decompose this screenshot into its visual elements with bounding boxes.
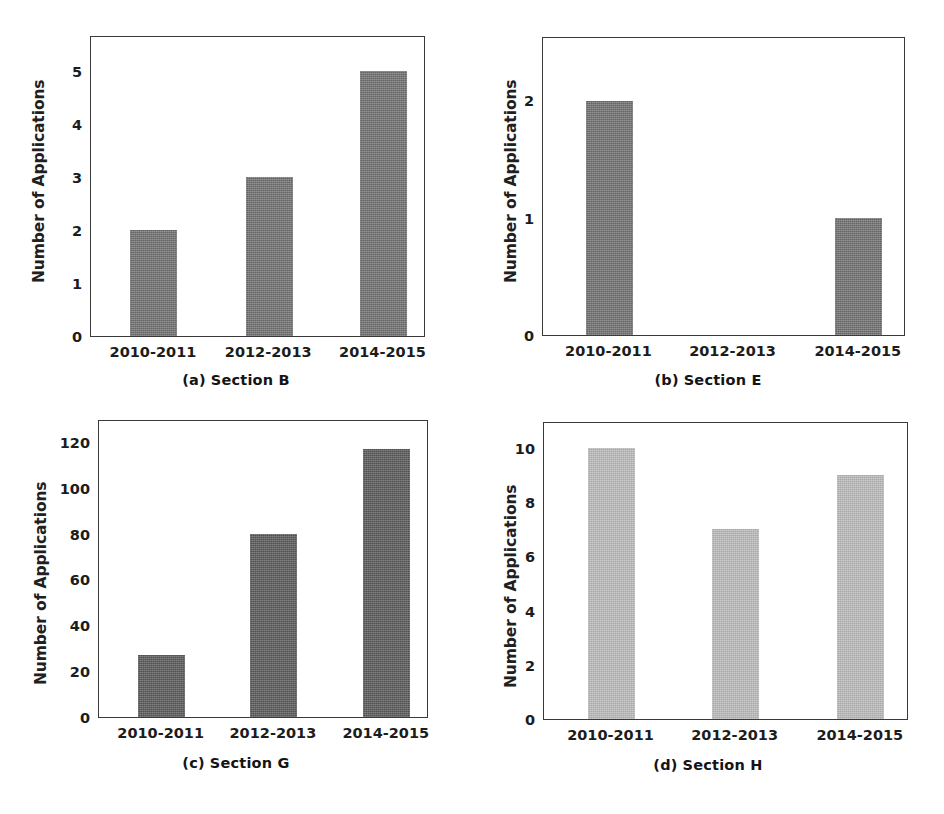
bar [586, 101, 633, 336]
bar [138, 655, 185, 717]
bar [360, 71, 407, 336]
x-tick-label: 2014-2015 [339, 344, 426, 360]
y-tick-label: 0 [472, 712, 535, 728]
y-tick-label: 2 [0, 223, 82, 239]
y-tick-label: 5 [0, 64, 82, 80]
panel-caption-id-a: (a) [182, 372, 206, 388]
figure-grid: Number of Applications 012345 2010-20112… [0, 0, 944, 814]
y-tick-label: 2 [472, 93, 534, 109]
y-tick-label: 3 [0, 170, 82, 186]
plot-area-d [543, 422, 908, 720]
bar-group-c [99, 421, 427, 717]
chart-panel-c: Number of Applications 020406080100120 2… [0, 407, 472, 814]
y-tick-label: 10 [472, 441, 535, 457]
y-tick-label: 120 [0, 435, 90, 451]
x-tick-label: 2012-2013 [230, 725, 317, 741]
bar [837, 475, 884, 719]
x-tick-label: 2012-2013 [689, 343, 776, 359]
bar [363, 449, 410, 717]
panel-caption-text-c: Section G [210, 755, 290, 771]
panel-caption-id-d: (d) [653, 757, 677, 773]
bar-group-d [544, 423, 907, 719]
chart-panel-d: Number of Applications 0246810 2010-2011… [472, 407, 944, 814]
y-tick-label: 0 [0, 329, 82, 345]
bar [250, 534, 297, 717]
chart-panel-b: Number of Applications 012 2010-20112012… [472, 0, 944, 407]
x-tick-label: 2010-2011 [567, 727, 654, 743]
y-axis-label-b: Number of Applications [502, 80, 520, 284]
x-tick-label: 2012-2013 [691, 727, 778, 743]
y-tick-label: 6 [472, 549, 535, 565]
y-tick-label: 40 [0, 618, 90, 634]
y-tick-label: 1 [472, 211, 534, 227]
y-tick-label: 20 [0, 664, 90, 680]
bar-group-b [543, 38, 904, 335]
y-tick-label: 0 [472, 328, 534, 344]
bar-group-a [91, 37, 424, 336]
panel-caption-id-b: (b) [654, 372, 678, 388]
bar [712, 529, 759, 719]
panel-caption-text-a: Section B [211, 372, 290, 388]
x-tick-label: 2014-2015 [816, 727, 903, 743]
y-tick-label: 1 [0, 276, 82, 292]
panel-caption-d: (d)Section H [472, 757, 944, 773]
chart-panel-a: Number of Applications 012345 2010-20112… [0, 0, 472, 407]
bar [588, 448, 635, 719]
y-tick-label: 0 [0, 710, 90, 726]
panel-caption-text-d: Section H [683, 757, 763, 773]
x-tick-label: 2010-2011 [117, 725, 204, 741]
plot-area-a [90, 36, 425, 337]
y-tick-label: 80 [0, 527, 90, 543]
y-tick-label: 60 [0, 572, 90, 588]
x-tick-label: 2010-2011 [565, 343, 652, 359]
panel-caption-text-b: Section E [684, 372, 762, 388]
x-tick-label: 2012-2013 [225, 344, 312, 360]
x-tick-label: 2010-2011 [110, 344, 197, 360]
x-tick-label: 2014-2015 [342, 725, 429, 741]
plot-area-c [98, 420, 428, 718]
y-tick-label: 4 [0, 117, 82, 133]
panel-caption-b: (b)Section E [472, 372, 944, 388]
y-tick-label: 4 [472, 604, 535, 620]
y-tick-label: 2 [472, 658, 535, 674]
y-tick-label: 100 [0, 481, 90, 497]
plot-area-b [542, 37, 905, 336]
panel-caption-c: (c)Section G [0, 755, 472, 771]
panel-caption-a: (a)Section B [0, 372, 472, 388]
x-tick-label: 2014-2015 [814, 343, 901, 359]
panel-caption-id-c: (c) [182, 755, 204, 771]
bar [246, 177, 293, 336]
bar [835, 218, 882, 335]
y-tick-label: 8 [472, 495, 535, 511]
bar [130, 230, 177, 336]
